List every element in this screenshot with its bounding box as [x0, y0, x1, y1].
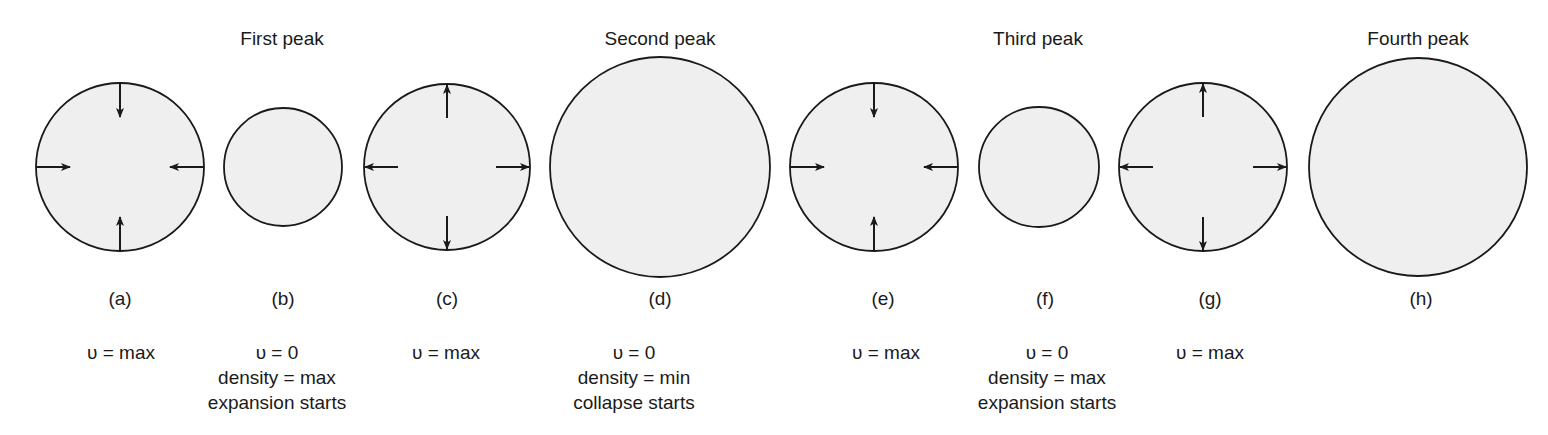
velocity-text: υ = max: [87, 340, 155, 365]
stellar-pulsation-diagram: First peak Second peak Third peak Fourth…: [0, 0, 1548, 435]
circle-c: [364, 84, 530, 250]
panel-label-d: (d): [648, 288, 671, 310]
density-text: density = max: [208, 365, 346, 390]
star-circle: [550, 57, 770, 277]
peak-title-first: First peak: [240, 28, 323, 50]
star-circle: [979, 107, 1099, 227]
circle-a: [36, 83, 204, 251]
panel-label-b: (b): [271, 288, 294, 310]
velocity-text: υ = 0: [208, 340, 346, 365]
density-text: density = min: [573, 365, 694, 390]
panel-label-h: (h): [1409, 288, 1432, 310]
star-circle: [1309, 58, 1527, 276]
phase-text: expansion starts: [208, 390, 346, 415]
velocity-text: υ = 0: [573, 340, 694, 365]
star-circle: [224, 108, 342, 226]
annotation-f: υ = 0 density = max expansion starts: [978, 340, 1116, 415]
velocity-text: υ = max: [852, 340, 920, 365]
panel-label-a: (a): [108, 288, 131, 310]
annotation-g: υ = max: [1176, 340, 1244, 365]
peak-title-second: Second peak: [605, 28, 716, 50]
peak-title-third: Third peak: [993, 28, 1083, 50]
circle-e: [790, 83, 958, 251]
circle-h: [1309, 58, 1527, 276]
circle-g: [1119, 83, 1287, 251]
panel-label-f: (f): [1036, 288, 1054, 310]
circle-f: [979, 107, 1099, 227]
circle-d: [550, 57, 770, 277]
peak-title-fourth: Fourth peak: [1367, 28, 1468, 50]
annotation-d: υ = 0 density = min collapse starts: [573, 340, 694, 415]
panel-label-e: (e): [871, 288, 894, 310]
phase-text: collapse starts: [573, 390, 694, 415]
phase-text: expansion starts: [978, 390, 1116, 415]
panel-label-c: (c): [436, 288, 458, 310]
velocity-text: υ = 0: [978, 340, 1116, 365]
velocity-text: υ = max: [412, 340, 480, 365]
annotation-b: υ = 0 density = max expansion starts: [208, 340, 346, 415]
velocity-text: υ = max: [1176, 340, 1244, 365]
annotation-e: υ = max: [852, 340, 920, 365]
panel-label-g: (g): [1198, 288, 1221, 310]
annotation-c: υ = max: [412, 340, 480, 365]
density-text: density = max: [978, 365, 1116, 390]
annotation-a: υ = max: [87, 340, 155, 365]
circle-b: [224, 108, 342, 226]
